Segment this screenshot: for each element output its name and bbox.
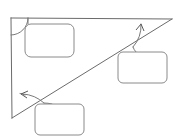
leader-line-right <box>133 47 136 52</box>
angle-arrow-head-top-right <box>136 24 144 31</box>
callout-right-box[interactable] <box>118 52 167 83</box>
callout-bottom-box[interactable] <box>35 104 84 135</box>
angle-arc-top-right <box>133 24 141 47</box>
triangle-top-edge <box>11 18 172 19</box>
callout-right[interactable] <box>118 52 167 83</box>
diagram-canvas <box>0 0 177 139</box>
callout-bottom[interactable] <box>35 104 84 135</box>
callout-top-left[interactable] <box>25 24 74 57</box>
triangle-left-edge <box>11 18 12 118</box>
callout-top-left-box[interactable] <box>25 24 74 57</box>
angle-marker-top-right <box>133 24 144 47</box>
angle-arc-bottom-left <box>23 94 44 103</box>
angle-marker-bottom-left <box>20 91 44 103</box>
triangle-angle-diagram <box>0 0 177 139</box>
